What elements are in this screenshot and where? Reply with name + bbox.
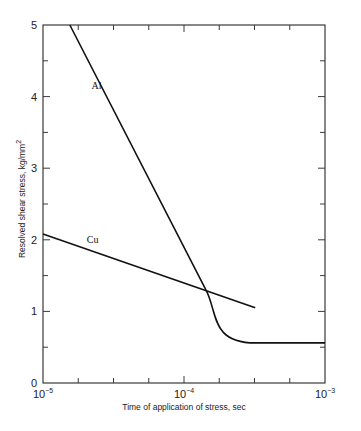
series-layer: [43, 25, 325, 343]
x-tick-label: 10−4: [174, 387, 194, 400]
plot-frame: [43, 25, 325, 383]
y-tick-label: 5: [31, 19, 37, 31]
y-tick-label: 4: [31, 91, 37, 103]
chart: 01234510−510−410−3Time of application of…: [0, 0, 361, 431]
y-tick-label: 3: [31, 162, 37, 174]
y-tick-label: 2: [31, 234, 37, 246]
ticks: [43, 25, 325, 383]
plot-area: 01234510−510−410−3Time of application of…: [0, 0, 361, 431]
labels: 01234510−510−410−3Time of application of…: [15, 19, 335, 412]
axes: [43, 25, 325, 383]
series-label-cu: Cu: [87, 234, 99, 245]
x-axis-title: Time of application of stress, sec: [122, 402, 246, 412]
x-tick-label: 10−5: [33, 387, 53, 400]
series-label-al: Al: [92, 80, 102, 91]
series-line-al: [70, 25, 325, 343]
series-line-cu: [43, 234, 255, 308]
y-tick-label: 1: [31, 305, 37, 317]
y-axis-title: Resolved shear stress, kg/mm2: [15, 140, 27, 258]
x-tick-label: 10−3: [315, 387, 335, 400]
